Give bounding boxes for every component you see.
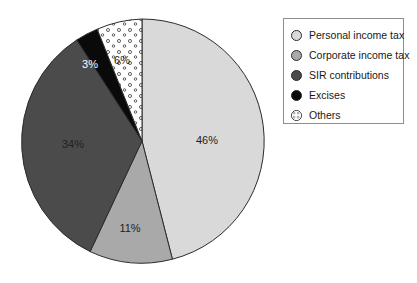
pie-label-others: 6% — [114, 54, 130, 66]
dotted-pattern-icon — [292, 111, 301, 120]
legend-item-sir-contributions[interactable]: SIR contributions — [291, 66, 403, 85]
legend-swatch-personal-income-tax — [291, 30, 302, 41]
legend-label-excises: Excises — [309, 90, 345, 101]
pie-label-excises: 3% — [82, 58, 98, 70]
legend-swatch-corporate-income-tax — [291, 50, 302, 61]
legend-item-personal-income-tax[interactable]: Personal income tax — [291, 26, 403, 45]
legend-swatch-others — [291, 110, 302, 121]
pie-label-personal-income-tax: 46% — [196, 134, 218, 146]
legend-label-others: Others — [309, 110, 341, 121]
legend-item-corporate-income-tax[interactable]: Corporate income tax — [291, 46, 403, 65]
pie-svg: 46% 11% 34% 3% 6% — [17, 16, 267, 266]
pie-label-sir-contributions: 34% — [62, 138, 84, 150]
pie-label-corporate-income-tax: 11% — [119, 222, 140, 234]
legend-item-excises[interactable]: Excises — [291, 86, 403, 105]
legend-swatch-excises — [291, 90, 302, 101]
legend-item-others[interactable]: Others — [291, 106, 403, 125]
legend-swatch-sir-contributions — [291, 70, 302, 81]
legend-label-personal-income-tax: Personal income tax — [309, 30, 404, 41]
legend-label-corporate-income-tax: Corporate income tax — [309, 50, 409, 61]
legend-label-sir-contributions: SIR contributions — [309, 70, 389, 81]
pie-chart-figure: 46% 11% 34% 3% 6% Personal income tax Co… — [0, 0, 417, 283]
chart-legend: Personal income tax Corporate income tax… — [283, 18, 404, 124]
pie-chart: 46% 11% 34% 3% 6% — [17, 16, 267, 266]
pie-slices — [22, 19, 265, 263]
